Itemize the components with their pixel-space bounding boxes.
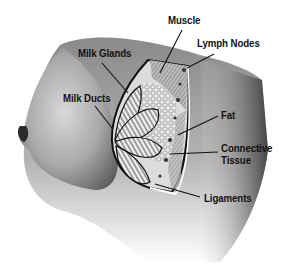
label-connective-tissue-line2: Tissue — [221, 155, 251, 166]
label-lymph-nodes: Lymph Nodes — [197, 38, 260, 49]
breast-anatomy-diagram: Muscle Lymph Nodes Milk Glands Milk Duct… — [0, 0, 284, 272]
label-muscle: Muscle — [168, 15, 200, 26]
label-ligaments: Ligaments — [204, 193, 252, 204]
label-milk-ducts: Milk Ducts — [63, 93, 111, 104]
label-milk-glands: Milk Glands — [78, 48, 131, 59]
label-connective-tissue-line1: Connective — [221, 143, 272, 154]
label-fat: Fat — [221, 110, 235, 121]
